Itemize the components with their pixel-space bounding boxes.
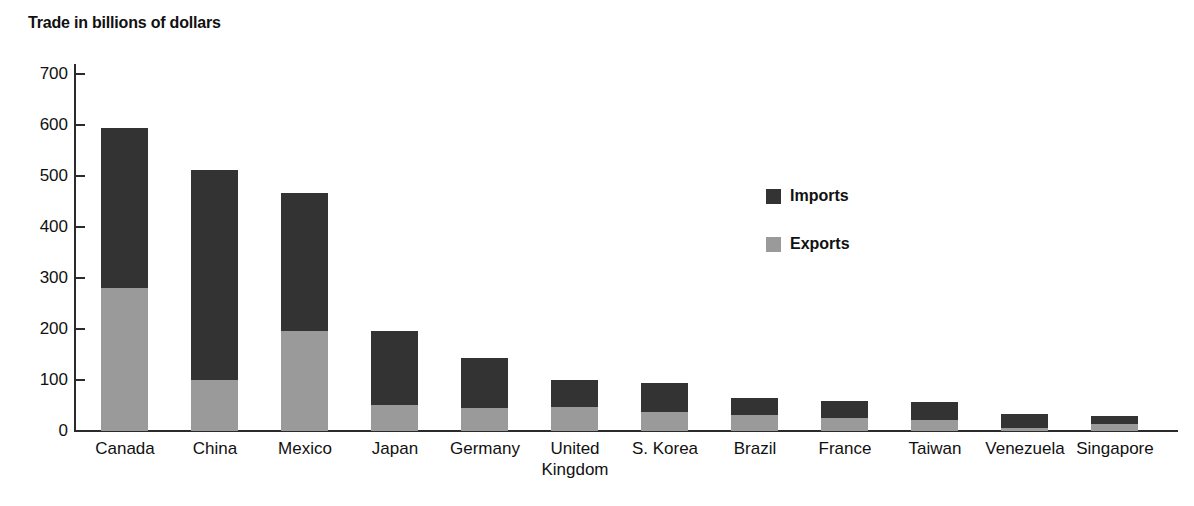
legend-swatch-icon [766,189,781,204]
y-axis-tick: 500 [0,167,68,184]
y-axis-tick: 0 [0,422,68,439]
y-axis-tick: 300 [0,269,68,286]
bar-segment-imports[interactable] [911,402,958,420]
y-axis-tick-label: 600 [22,116,68,133]
bar-segment-exports[interactable] [641,412,688,431]
y-axis-tick-label: 700 [22,65,68,82]
bar-stack[interactable] [371,331,418,431]
y-axis-tick-label: 100 [22,371,68,388]
y-axis-tick-label: 500 [22,167,68,184]
bar-stack[interactable] [281,193,328,431]
x-axis-category-label: Singapore [1055,438,1175,459]
bar-segment-exports[interactable] [1001,428,1048,431]
legend-swatch-icon [766,237,781,252]
bar-stack[interactable] [1001,414,1048,431]
bar-segment-exports[interactable] [461,408,508,431]
bar-stack[interactable] [191,170,238,431]
bar-segment-imports[interactable] [1001,414,1048,428]
y-axis-tick-mark [76,328,85,330]
bar-stack[interactable] [101,128,148,431]
y-axis-tick-mark [76,73,85,75]
plot-area: 7006005004003002001000 CanadaChinaMexico… [0,0,1194,506]
y-axis-tick-mark [76,379,85,381]
legend-item-label: Imports [790,187,849,205]
bar-stack[interactable] [461,358,508,431]
bar-segment-imports[interactable] [551,380,598,407]
legend-item[interactable]: Imports [766,186,850,206]
y-axis-line [74,64,76,432]
y-axis-tick: 400 [0,218,68,235]
y-axis-tick-label: 300 [22,269,68,286]
bar-stack[interactable] [821,401,868,431]
bar-segment-imports[interactable] [1091,416,1138,424]
bar-segment-imports[interactable] [191,170,238,380]
bar-segment-exports[interactable] [281,331,328,431]
bar-segment-exports[interactable] [1091,424,1138,431]
bar-segment-imports[interactable] [641,383,688,412]
y-axis-tick-mark [76,226,85,228]
y-axis-tick: 600 [0,116,68,133]
bar-segment-exports[interactable] [191,380,238,431]
bar-segment-imports[interactable] [371,331,418,405]
bar-segment-exports[interactable] [821,418,868,431]
bar-segment-imports[interactable] [281,193,328,331]
bar-stack[interactable] [551,380,598,431]
chart-legend: ImportsExports [766,186,850,282]
bar-stack[interactable] [641,383,688,431]
y-axis-tick-label: 200 [22,320,68,337]
bar-segment-exports[interactable] [911,420,958,431]
bar-stack[interactable] [731,398,778,431]
bar-segment-imports[interactable] [461,358,508,408]
y-axis-tick: 100 [0,371,68,388]
bar-stack[interactable] [1091,416,1138,431]
bar-stack[interactable] [911,402,958,431]
bar-segment-imports[interactable] [731,398,778,415]
y-axis-tick-label: 0 [22,422,68,439]
x-axis-category-label-line2: Kingdom [515,459,635,480]
y-axis-tick-mark [76,277,85,279]
y-axis-tick: 700 [0,65,68,82]
bar-segment-exports[interactable] [101,288,148,431]
legend-item[interactable]: Exports [766,234,850,254]
y-axis-tick-label: 400 [22,218,68,235]
bar-segment-exports[interactable] [551,407,598,431]
y-axis-tick-mark [76,175,85,177]
y-axis-tick-mark [76,124,85,126]
bar-segment-imports[interactable] [821,401,868,418]
y-axis-tick: 200 [0,320,68,337]
bar-segment-exports[interactable] [371,405,418,431]
x-axis-category-label-line1: Singapore [1055,438,1175,459]
chart-figure: Trade in billions of dollars 70060050040… [0,0,1194,506]
legend-item-label: Exports [790,235,850,253]
bar-segment-imports[interactable] [101,128,148,289]
bar-segment-exports[interactable] [731,415,778,431]
